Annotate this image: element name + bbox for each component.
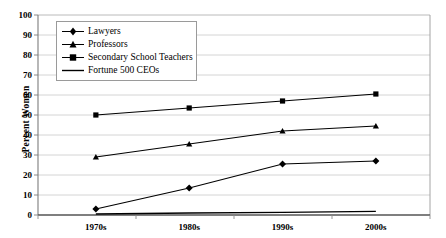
triangle-marker-icon (61, 38, 85, 51)
legend-item: Fortune 500 CEOs (61, 64, 190, 77)
legend-item-label: Lawyers (85, 25, 121, 38)
square-marker-icon (61, 51, 85, 64)
legend-item-label: Secondary School Teachers (85, 51, 193, 64)
x-axis-tick-label: 1970s (85, 222, 107, 232)
legend-item-label: Professors (85, 38, 128, 51)
legend-item: Lawyers (61, 25, 190, 38)
legend-item: Professors (61, 38, 190, 51)
plain-line-marker-icon (61, 64, 85, 77)
diamond-marker-icon (61, 25, 85, 38)
chart-legend: Lawyers Professors Secondary School Teac… (56, 21, 197, 81)
x-axis-tick-label: 1990s (272, 222, 294, 232)
legend-item: Secondary School Teachers (61, 51, 190, 64)
x-axis-tick-label: 1980s (178, 222, 200, 232)
chart-container: Percent Women 0102030405060708090100 197… (0, 0, 446, 238)
x-axis-tick-label: 2000s (365, 222, 387, 232)
legend-item-label: Fortune 500 CEOs (85, 64, 159, 77)
